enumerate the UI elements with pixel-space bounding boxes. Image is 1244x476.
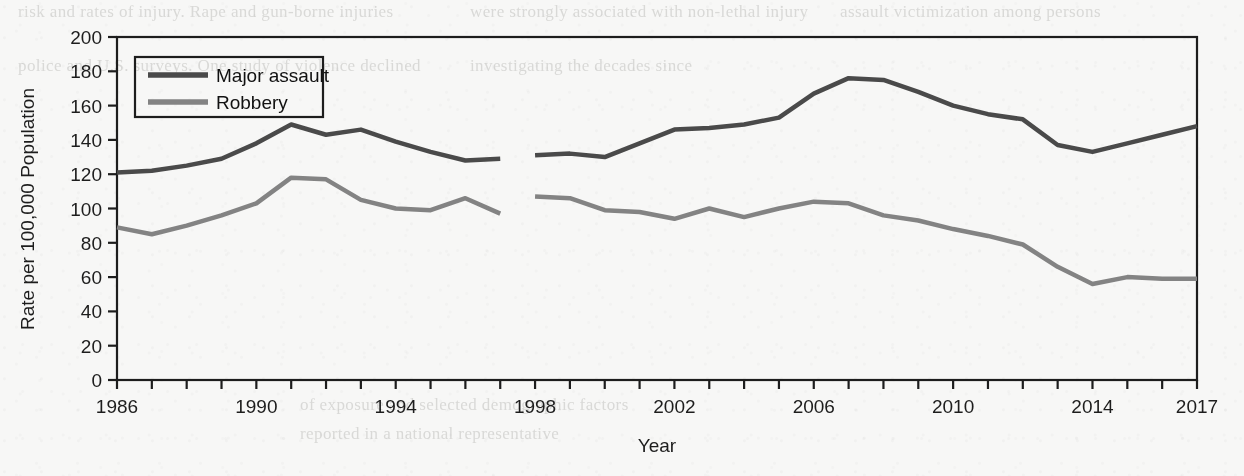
y-tick-label: 180 [70, 61, 102, 82]
y-axis-title: Rate per 100,000 Population [17, 88, 38, 330]
x-tick-label: 2017 [1176, 396, 1218, 417]
x-axis-title: Year [638, 435, 677, 456]
y-tick-label: 40 [81, 301, 102, 322]
chart-canvas: 020406080100120140160180200 198619901994… [0, 0, 1244, 476]
plot-frame [117, 37, 1197, 380]
y-tick-label: 0 [91, 370, 102, 391]
y-axis-ticks [108, 37, 117, 380]
x-tick-label: 1986 [96, 396, 138, 417]
y-tick-label: 160 [70, 96, 102, 117]
series-line [535, 196, 1197, 283]
x-tick-label: 1990 [235, 396, 277, 417]
line-chart-figure: 020406080100120140160180200 198619901994… [0, 0, 1244, 476]
series-line [117, 124, 500, 172]
series-line [535, 78, 1197, 157]
x-tick-label: 2006 [793, 396, 835, 417]
y-tick-label: 20 [81, 336, 102, 357]
y-tick-label: 60 [81, 267, 102, 288]
legend-entries: Major assaultRobbery [148, 65, 330, 113]
legend-label: Major assault [216, 65, 330, 86]
chart-legend: Major assaultRobbery [135, 57, 330, 117]
x-tick-label: 2014 [1071, 396, 1114, 417]
x-tick-label: 1998 [514, 396, 556, 417]
y-tick-label: 120 [70, 164, 102, 185]
y-axis-tick-labels: 020406080100120140160180200 [70, 27, 102, 391]
x-tick-label: 2002 [653, 396, 695, 417]
x-tick-label: 2010 [932, 396, 974, 417]
y-tick-label: 100 [70, 199, 102, 220]
y-tick-label: 140 [70, 130, 102, 151]
x-axis-tick-labels: 198619901994199820022006201020142017 [96, 396, 1218, 417]
x-axis-ticks [117, 380, 1197, 389]
y-tick-label: 200 [70, 27, 102, 48]
x-tick-label: 1994 [375, 396, 418, 417]
legend-label: Robbery [216, 92, 288, 113]
series-line [117, 178, 500, 235]
y-tick-label: 80 [81, 233, 102, 254]
